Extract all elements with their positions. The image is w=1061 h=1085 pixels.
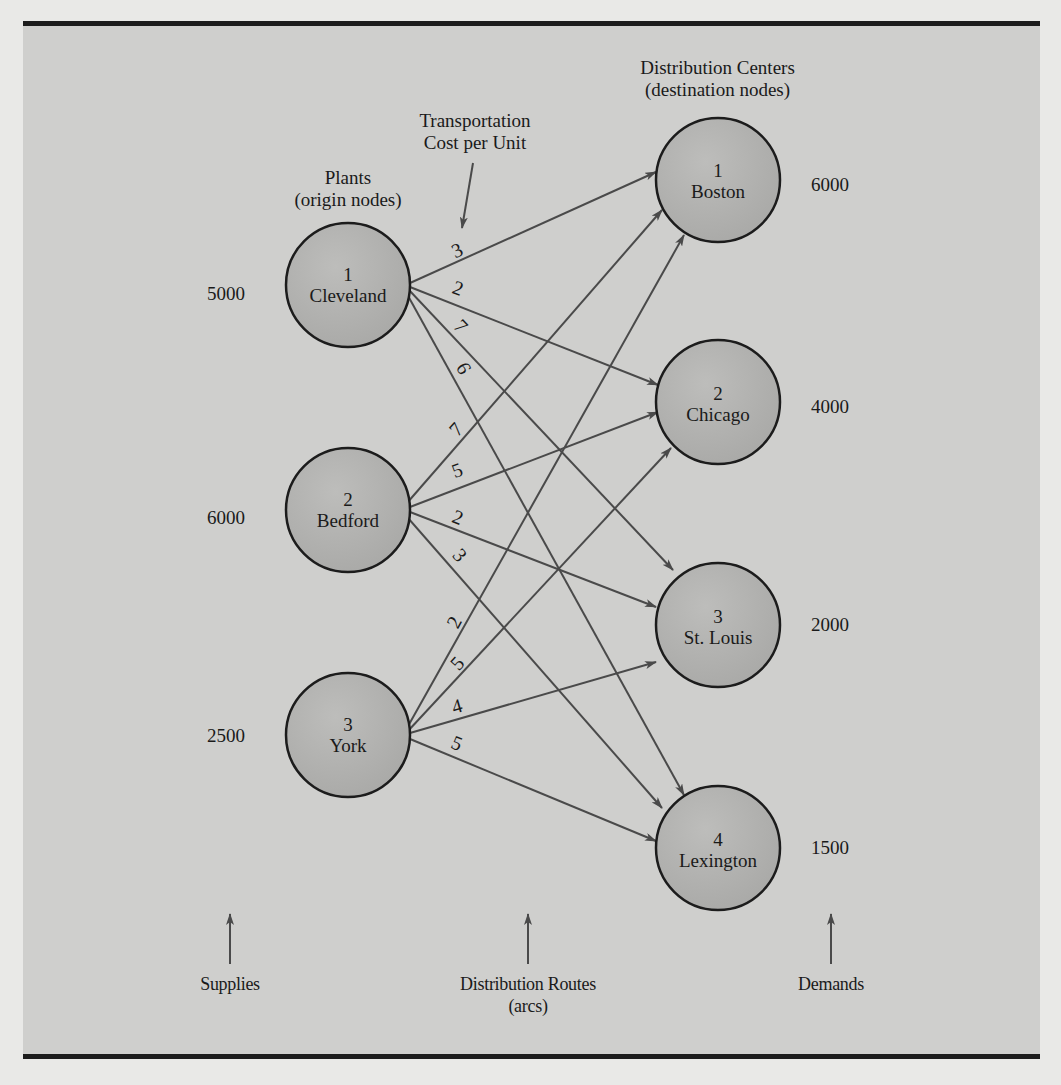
demand-boston: 6000 — [811, 174, 849, 196]
arcs-bedford — [407, 210, 662, 808]
node-name: Bedford — [286, 510, 410, 531]
network-diagram — [0, 0, 1061, 1085]
node-id: 1 — [286, 264, 410, 285]
node-name: Cleveland — [286, 285, 410, 306]
node-id: 4 — [656, 829, 780, 850]
node-id: 2 — [656, 383, 780, 404]
demand-chicago: 4000 — [811, 396, 849, 418]
node-id: 3 — [656, 606, 780, 627]
node-lexington-label: 4 Lexington — [656, 829, 780, 871]
distribution-routes-label: Distribution Routes (arcs) — [428, 973, 628, 1017]
arc-york-stlouis — [410, 662, 656, 733]
arc-york-lexington — [410, 739, 656, 841]
node-stlouis-label: 3 St. Louis — [656, 606, 780, 648]
plants-title: Plants — [278, 167, 418, 189]
node-bedford-label: 2 Bedford — [286, 489, 410, 531]
node-boston-label: 1 Boston — [656, 160, 780, 202]
arc-bedford-lexington — [408, 518, 662, 808]
transport-cost-title: Transportation — [400, 110, 550, 132]
demand-stlouis: 2000 — [811, 614, 849, 636]
distribution-centers-title: Distribution Centers — [625, 57, 810, 79]
arc-cleveland-chicago — [410, 287, 658, 385]
transport-cost-subtitle: Cost per Unit — [400, 132, 550, 154]
node-id: 2 — [286, 489, 410, 510]
distribution-routes-subtitle: (arcs) — [428, 995, 628, 1017]
node-name: St. Louis — [656, 627, 780, 648]
node-id: 1 — [656, 160, 780, 181]
node-name: Lexington — [656, 850, 780, 871]
node-id: 3 — [286, 714, 410, 735]
supply-york: 2500 — [207, 725, 245, 747]
supply-cleveland: 5000 — [207, 283, 245, 305]
node-name: York — [286, 735, 410, 756]
demand-lexington: 1500 — [811, 837, 849, 859]
node-cleveland-label: 1 Cleveland — [286, 264, 410, 306]
distribution-centers-subtitle: (destination nodes) — [625, 79, 810, 101]
arc-cleveland-boston — [410, 172, 656, 283]
node-chicago-label: 2 Chicago — [656, 383, 780, 425]
node-name: Chicago — [656, 404, 780, 425]
arc-cleveland-lexington — [407, 294, 684, 795]
transport-cost-header: Transportation Cost per Unit — [400, 110, 550, 154]
arc-cleveland-stlouis — [409, 290, 673, 570]
cost-callout-arrow — [462, 163, 473, 228]
node-name: Boston — [656, 181, 780, 202]
arc-bedford-stlouis — [410, 512, 656, 607]
plants-subtitle: (origin nodes) — [278, 189, 418, 211]
supply-bedford: 6000 — [207, 507, 245, 529]
demands-label: Demands — [781, 973, 881, 995]
plants-header: Plants (origin nodes) — [278, 167, 418, 211]
node-york-label: 3 York — [286, 714, 410, 756]
distribution-routes-title: Distribution Routes — [428, 973, 628, 995]
distribution-centers-header: Distribution Centers (destination nodes) — [625, 57, 810, 101]
supplies-label: Supplies — [180, 973, 280, 995]
